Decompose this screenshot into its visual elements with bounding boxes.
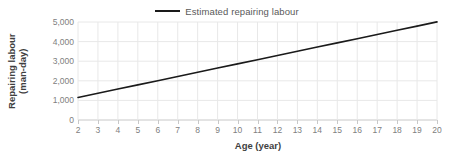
x-tick-mark bbox=[277, 120, 278, 124]
x-tick-label: 17 bbox=[372, 125, 381, 135]
x-tick-label: 3 bbox=[96, 125, 101, 135]
x-axis-title: Age (year) bbox=[78, 140, 438, 151]
y-tick-label: 0 bbox=[69, 115, 74, 125]
y-tick-label: 5,000 bbox=[53, 17, 74, 27]
x-tick-mark bbox=[417, 120, 418, 124]
y-axis-tick-labels: 01,0002,0003,0004,0005,000 bbox=[40, 22, 74, 120]
y-axis-title-line2: (man-day) bbox=[17, 33, 28, 108]
x-tick-label: 6 bbox=[155, 125, 160, 135]
x-tick-label: 8 bbox=[195, 125, 200, 135]
y-axis-title-line1: Repairing labour bbox=[6, 33, 17, 108]
x-tick-mark bbox=[78, 120, 79, 124]
x-tick-label: 12 bbox=[273, 125, 282, 135]
y-tick-label: 2,000 bbox=[53, 76, 74, 86]
x-tick-label: 2 bbox=[76, 125, 81, 135]
legend-label: Estimated repairing labour bbox=[185, 6, 299, 17]
x-tick-mark bbox=[98, 120, 99, 124]
x-tick-mark bbox=[377, 120, 378, 124]
x-tick-mark bbox=[357, 120, 358, 124]
y-tick-label: 4,000 bbox=[53, 37, 74, 47]
x-tick-mark bbox=[297, 120, 298, 124]
x-tick-mark bbox=[337, 120, 338, 124]
y-axis-title: Repairing labour (man-day) bbox=[2, 22, 32, 120]
x-tick-label: 19 bbox=[412, 125, 421, 135]
x-tick-mark bbox=[178, 120, 179, 124]
x-tick-label: 5 bbox=[135, 125, 140, 135]
x-tick-mark bbox=[158, 120, 159, 124]
x-tick-label: 15 bbox=[333, 125, 342, 135]
x-tick-label: 4 bbox=[116, 125, 121, 135]
x-tick-mark bbox=[218, 120, 219, 124]
x-tick-mark bbox=[317, 120, 318, 124]
x-tick-label: 10 bbox=[233, 125, 242, 135]
x-tick-mark bbox=[138, 120, 139, 124]
x-tick-label: 16 bbox=[352, 125, 361, 135]
x-tick-mark bbox=[118, 120, 119, 124]
y-tick-label: 1,000 bbox=[53, 95, 74, 105]
x-tick-mark bbox=[397, 120, 398, 124]
chart-container: Estimated repairing labour Repairing lab… bbox=[0, 0, 454, 161]
x-tick-mark bbox=[437, 120, 438, 124]
series-line bbox=[78, 22, 437, 98]
x-tick-label: 7 bbox=[175, 125, 180, 135]
x-tick-label: 18 bbox=[392, 125, 401, 135]
plot-area bbox=[78, 22, 437, 120]
x-tick-mark bbox=[238, 120, 239, 124]
x-tick-label: 11 bbox=[253, 125, 262, 135]
legend-line-swatch-icon bbox=[155, 10, 180, 12]
x-tick-mark bbox=[258, 120, 259, 124]
x-tick-label: 9 bbox=[215, 125, 220, 135]
legend-entry-estimated-repairing-labour[interactable]: Estimated repairing labour bbox=[155, 6, 299, 17]
x-axis-tick-labels: 234567891011121314151617181920 bbox=[78, 120, 437, 138]
x-tick-label: 20 bbox=[432, 125, 441, 135]
x-tick-mark bbox=[198, 120, 199, 124]
series-estimated-repairing-labour bbox=[78, 22, 437, 120]
x-tick-label: 13 bbox=[293, 125, 302, 135]
x-tick-label: 14 bbox=[313, 125, 322, 135]
y-tick-label: 3,000 bbox=[53, 56, 74, 66]
